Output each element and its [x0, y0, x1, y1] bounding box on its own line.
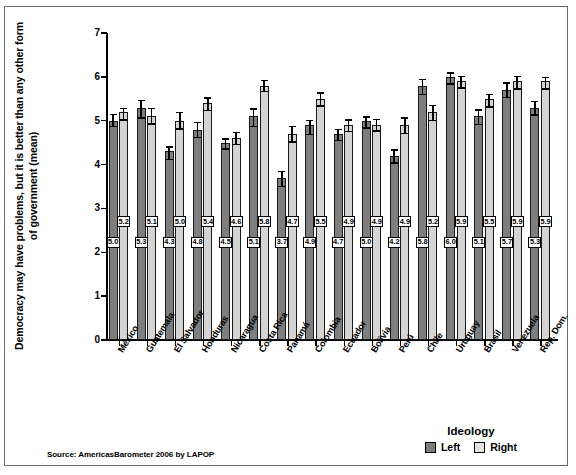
error-cap-top — [120, 108, 127, 109]
y-axis-tick-label: 2 — [82, 247, 100, 257]
y-axis-tick — [101, 76, 107, 78]
bar-group: 5.15.8 — [248, 33, 276, 340]
bar-right[interactable] — [513, 81, 522, 340]
error-cap-bottom — [391, 162, 398, 163]
bar-value-label: 5.5 — [483, 216, 496, 227]
bar-group: 5.35.9 — [529, 33, 557, 340]
y-axis-tick — [101, 164, 107, 166]
bar-right[interactable] — [457, 81, 466, 340]
bar-right[interactable] — [400, 125, 409, 340]
bar-value-label: 5.1 — [247, 237, 260, 248]
error-cap-bottom — [531, 114, 538, 115]
error-cap-bottom — [306, 134, 313, 135]
y-axis-tick — [101, 252, 107, 254]
bar-value-label: 4.3 — [163, 237, 176, 248]
bar-right[interactable] — [344, 125, 353, 340]
error-cap-top — [138, 100, 145, 101]
error-bar — [422, 79, 424, 93]
error-bar — [337, 129, 339, 140]
bar-right[interactable] — [372, 125, 381, 340]
bar-right[interactable] — [541, 81, 550, 340]
error-bar — [225, 138, 227, 148]
error-cap-top — [176, 112, 183, 113]
legend: Ideology LeftRight — [383, 425, 559, 453]
y-axis-tick-label: 1 — [82, 291, 100, 301]
error-bar — [404, 117, 406, 133]
bar-value-label: 4.7 — [332, 237, 345, 248]
error-cap-bottom — [345, 131, 352, 132]
error-cap-bottom — [204, 110, 211, 111]
bar-right[interactable] — [175, 121, 184, 340]
bar-value-label: 4.5 — [219, 237, 232, 248]
error-bar — [168, 146, 170, 159]
bar-group-container: 5.05.25.35.14.35.04.85.44.54.65.15.83.74… — [108, 33, 558, 340]
bar-value-label: 5.3 — [528, 237, 541, 248]
bar-value-label: 4.9 — [342, 216, 355, 227]
bar-value-label: 5.5 — [314, 216, 327, 227]
error-bar — [197, 122, 199, 137]
bar-left[interactable] — [446, 77, 455, 340]
bar-group: 5.35.1 — [136, 33, 164, 340]
y-axis-tick — [101, 295, 107, 297]
source-note: Source: AmericasBarometer 2006 by LAPOP — [47, 450, 214, 459]
error-bar — [291, 126, 293, 141]
bar-group: 3.74.7 — [276, 33, 304, 340]
error-bar — [365, 116, 367, 127]
error-cap-top — [194, 122, 201, 123]
error-bar — [151, 108, 153, 124]
error-bar — [179, 112, 181, 128]
error-bar — [112, 114, 114, 126]
error-cap-top — [345, 119, 352, 120]
legend-label: Left — [441, 441, 460, 453]
bar-right[interactable] — [232, 138, 241, 340]
bar-right[interactable] — [147, 116, 156, 340]
bar-group: 5.75.9 — [501, 33, 529, 340]
error-cap-top — [289, 126, 296, 127]
error-bar — [253, 108, 255, 126]
bar-right[interactable] — [288, 134, 297, 340]
bar-group: 5.85.2 — [417, 33, 445, 340]
error-cap-bottom — [120, 119, 127, 120]
bar-left[interactable] — [305, 125, 314, 340]
error-cap-top — [204, 97, 211, 98]
bar-left[interactable] — [109, 121, 118, 340]
bar-group: 4.95.5 — [304, 33, 332, 340]
error-cap-bottom — [278, 186, 285, 187]
error-cap-top — [486, 94, 493, 95]
bar-left[interactable] — [474, 116, 483, 340]
bar-left[interactable] — [418, 86, 427, 340]
error-cap-top — [401, 117, 408, 118]
plot-area: 01234567 5.05.25.35.14.35.04.85.44.54.65… — [106, 33, 558, 340]
error-bar — [320, 92, 322, 105]
y-axis-tick-label: 5 — [82, 116, 100, 126]
bar-right[interactable] — [260, 86, 269, 340]
error-cap-top — [222, 138, 229, 139]
legend-item-right[interactable]: Right — [474, 441, 517, 453]
bar-left[interactable] — [249, 116, 258, 340]
bar-group: 4.74.9 — [333, 33, 361, 340]
error-cap-bottom — [289, 141, 296, 142]
bar-left[interactable] — [502, 90, 511, 340]
y-axis-tick-label: 3 — [82, 203, 100, 213]
bar-value-label: 5.9 — [511, 216, 524, 227]
error-cap-bottom — [222, 148, 229, 149]
bar-group: 5.05.2 — [108, 33, 136, 340]
error-cap-top — [542, 77, 549, 78]
legend-item-left[interactable]: Left — [425, 441, 460, 453]
legend-label: Right — [490, 441, 517, 453]
error-cap-bottom — [335, 140, 342, 141]
chart-frame: Democracy may have problems, but it is b… — [4, 6, 568, 466]
legend-title: Ideology — [383, 425, 559, 437]
bar-value-label: 5.1 — [472, 237, 485, 248]
legend-items: LeftRight — [383, 441, 559, 453]
error-cap-top — [306, 120, 313, 121]
error-cap-bottom — [458, 87, 465, 88]
bar-left[interactable] — [362, 121, 371, 340]
error-cap-top — [503, 82, 510, 83]
error-cap-top — [335, 129, 342, 130]
error-bar — [376, 119, 378, 130]
bar-group: 4.35.0 — [164, 33, 192, 340]
error-bar — [534, 101, 536, 114]
error-cap-top — [317, 92, 324, 93]
bar-value-label: 4.9 — [370, 216, 383, 227]
